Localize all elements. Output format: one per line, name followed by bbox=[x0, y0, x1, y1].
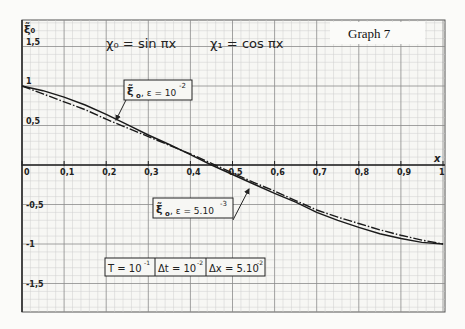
annotation-text: , ε = 5.10 bbox=[170, 206, 214, 216]
x-tick-label: 0,7 bbox=[313, 168, 327, 177]
annotation-superscript: -2 bbox=[179, 82, 186, 90]
x-tick-label: 0,4 bbox=[186, 168, 201, 177]
y-tick-label: -1 bbox=[26, 240, 35, 249]
subtitle-right: χ₁ = cos πx bbox=[210, 36, 284, 51]
y-tick-label: -1,5 bbox=[26, 280, 44, 289]
x-tick-label: 0,9 bbox=[397, 168, 412, 177]
y-tick-label: -0,5 bbox=[26, 201, 44, 210]
param-T: T = 10 bbox=[107, 263, 142, 274]
parameters-box: T = 10 -1 Δt = 10 -2 Δx = 5.10 -2 bbox=[105, 258, 265, 276]
y-tick-label: 0,5 bbox=[26, 117, 41, 126]
y-tick-label: 1 bbox=[26, 77, 32, 86]
param-dt-exp: -2 bbox=[197, 259, 203, 266]
x-tick-label: 0,2 bbox=[102, 168, 116, 177]
x-tick-label: 0,8 bbox=[355, 168, 370, 177]
param-dx: Δx = 5.10 bbox=[209, 263, 259, 274]
x-axis-label: x bbox=[433, 153, 441, 164]
y-tick-label: 1,5 bbox=[26, 38, 41, 47]
x-tick-label: 0,1 bbox=[60, 168, 75, 177]
param-T-exp: -1 bbox=[144, 259, 150, 266]
annotation-text: , ε = 10 bbox=[141, 88, 177, 98]
annotation-symbol: ξ̃ bbox=[127, 84, 134, 98]
x-tick-label: 0,6 bbox=[271, 168, 286, 177]
annotation-superscript: -3 bbox=[220, 200, 227, 208]
param-dt: Δt = 10 bbox=[158, 263, 196, 274]
x-tick-label: 1 bbox=[439, 168, 445, 177]
chart-title: Graph 7 bbox=[348, 26, 391, 41]
x-tick-label: 0,3 bbox=[144, 168, 158, 177]
param-dx-exp: -2 bbox=[257, 259, 263, 266]
subtitle-left: χ₀ = sin πx bbox=[106, 36, 176, 51]
annotation-symbol: ξ̃ bbox=[156, 202, 163, 216]
y-axis-label: ξ̃₀ bbox=[24, 22, 35, 36]
x-tick-label: 0 bbox=[24, 168, 30, 177]
graph-7-chart: 00,10,20,30,40,50,60,70,80,911,510,5-0,5… bbox=[0, 0, 465, 329]
